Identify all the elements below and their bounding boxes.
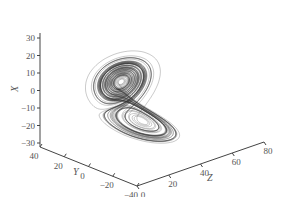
x-axis-title: X — [9, 85, 20, 93]
y-tick — [113, 173, 115, 176]
y-axis-title: Y — [73, 166, 80, 177]
x-axis: 3020100−10−20−30 X — [9, 33, 40, 148]
x-tick-label: 0 — [31, 86, 36, 96]
x-tick-label: −30 — [21, 138, 36, 148]
y-tick-label: 20 — [54, 161, 64, 171]
y-tick — [89, 164, 91, 167]
z-axis: 020406080 Z — [137, 142, 273, 197]
lorenz-3d-plot: 3020100−10−20−30 X 40200−20−40 Y 0204060… — [0, 0, 284, 197]
y-tick-label: −40 — [124, 190, 139, 197]
y-tick-label: −20 — [100, 180, 115, 190]
z-tick — [169, 175, 171, 178]
z-tick — [232, 153, 234, 156]
x-tick-label: 30 — [26, 33, 36, 43]
x-tick-label: 10 — [26, 68, 36, 78]
y-axis: 40200−20−40 Y — [30, 144, 140, 197]
z-tick — [137, 186, 139, 189]
trajectory-lines — [86, 51, 180, 143]
z-tick-label: 0 — [141, 190, 146, 197]
x-tick-label: 20 — [26, 51, 36, 61]
lorenz-trajectory — [86, 51, 180, 143]
z-axis-title: Z — [207, 172, 213, 183]
z-tick-label: 60 — [232, 157, 242, 167]
z-tick-label: 80 — [264, 146, 274, 156]
z-tick — [201, 164, 203, 167]
y-tick-label: 0 — [80, 171, 85, 181]
y-tick — [64, 154, 66, 157]
z-tick — [264, 142, 266, 145]
z-tick-label: 20 — [168, 179, 178, 189]
y-tick-label: 40 — [30, 151, 40, 161]
x-tick-label: −10 — [21, 103, 36, 113]
x-tick-label: −20 — [21, 121, 36, 131]
